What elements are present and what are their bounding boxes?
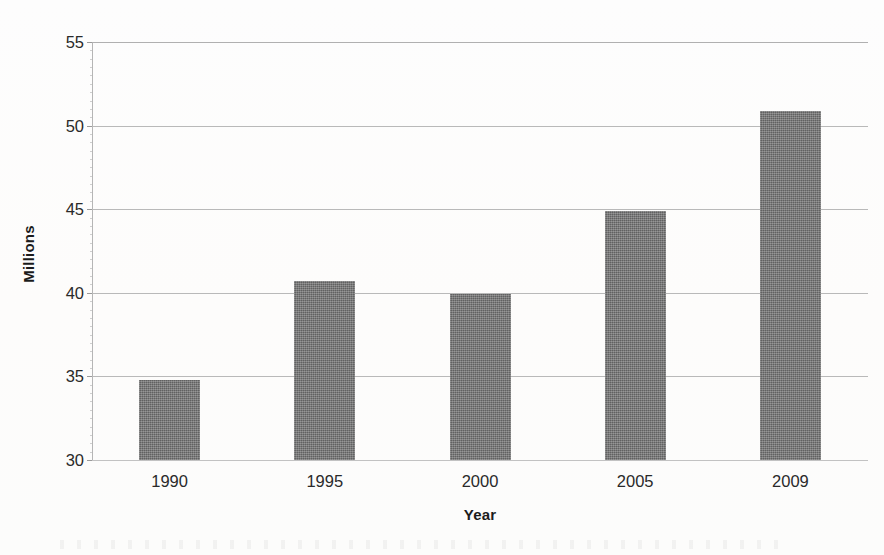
scan-artifact	[60, 540, 780, 549]
y-tick-label-40: 40	[46, 283, 84, 302]
bar-1990	[139, 380, 200, 460]
x-tick-label-2005: 2005	[617, 472, 654, 491]
x-tick-label-1995: 1995	[306, 472, 343, 491]
bar-2005	[605, 211, 666, 460]
y-tick-label-50: 50	[46, 116, 84, 135]
chart-figure: Millions 303540455055 199019952000200520…	[0, 0, 884, 555]
plot-area	[92, 42, 868, 460]
x-tick-label-2009: 2009	[772, 472, 809, 491]
y-tick-label-35: 35	[46, 367, 84, 386]
y-tick-label-45: 45	[46, 200, 84, 219]
x-tick-label-2000: 2000	[462, 472, 499, 491]
bar-2009	[760, 111, 821, 460]
bar-1995	[294, 281, 355, 460]
y-tick-label-30: 30	[46, 451, 84, 470]
x-axis-title: Year	[92, 506, 868, 523]
bar-2000	[450, 294, 511, 460]
gridline-30	[92, 460, 868, 461]
bar-series	[92, 42, 868, 460]
y-tick-label-55: 55	[46, 33, 84, 52]
x-axis-tick-labels: 19901995200020052009	[92, 472, 868, 498]
x-tick-label-1990: 1990	[151, 472, 188, 491]
y-tick-mark-30	[87, 460, 92, 461]
y-axis-tick-labels: 303540455055	[44, 0, 84, 555]
